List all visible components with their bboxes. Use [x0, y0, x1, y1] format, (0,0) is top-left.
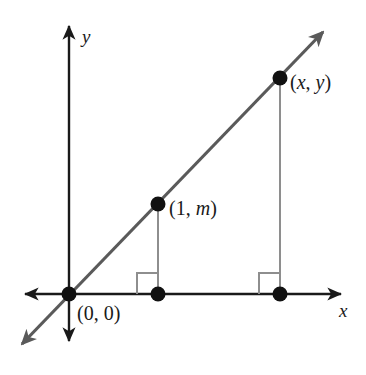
point-general	[273, 71, 288, 86]
graph-canvas	[0, 0, 366, 375]
unit-point-label: (1, m)	[169, 198, 217, 218]
y-axis-label: y	[82, 27, 90, 46]
point-origin	[62, 287, 77, 302]
point-unit-foot	[151, 287, 166, 302]
general-point-label: (x, y)	[290, 72, 331, 92]
x-axis-label: x	[339, 301, 347, 320]
point-general-foot	[273, 287, 288, 302]
origin-point-label: (0, 0)	[77, 303, 120, 323]
coordinate-plane-figure: y x (0, 0) (1, m) (x, y)	[0, 0, 366, 375]
point-unit	[151, 197, 166, 212]
